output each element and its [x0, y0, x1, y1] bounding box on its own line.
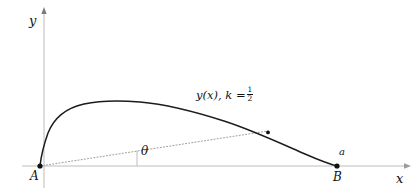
endpoint-label-a: a [339, 147, 345, 157]
point-label-b: B [333, 171, 342, 183]
angle-label-theta: θ [141, 145, 148, 157]
curve-label-text: y(x), k = [196, 88, 246, 102]
chord-intersection-marker [266, 131, 270, 135]
curve-y-of-x [40, 101, 337, 166]
fraction-numerator: 1 [247, 86, 254, 94]
y-axis-label: y [29, 14, 36, 27]
point-label-a: A [30, 170, 39, 182]
y-axis-arrowhead [41, 7, 46, 14]
curve-label-fraction: 12 [247, 86, 254, 102]
point-a-marker [37, 163, 42, 168]
chord-dotted-line [40, 131, 268, 166]
curve-label: y(x), k =12 [196, 86, 253, 102]
x-axis-label: x [396, 172, 403, 185]
x-axis-arrowhead [404, 163, 411, 169]
point-b-marker [334, 163, 339, 168]
math-figure: y x A B a θ y(x), k =12 [0, 0, 416, 196]
fraction-denominator: 2 [247, 94, 254, 103]
